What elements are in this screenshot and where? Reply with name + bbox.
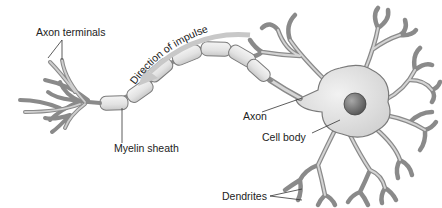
label-cell-body: Cell body: [262, 131, 307, 143]
leader-lines: [48, 40, 340, 200]
neuron-diagram: Axon terminals Direction of impulse Axon…: [0, 0, 442, 208]
nucleus: [344, 93, 366, 115]
myelin-sheath: [100, 41, 273, 110]
label-dendrites: Dendrites: [222, 190, 267, 202]
axon-terminals: [20, 60, 100, 132]
cell-body: [296, 65, 390, 137]
label-axon-terminals: Axon terminals: [36, 26, 105, 38]
label-axon: Axon: [243, 110, 267, 122]
label-myelin-sheath: Myelin sheath: [114, 142, 179, 154]
